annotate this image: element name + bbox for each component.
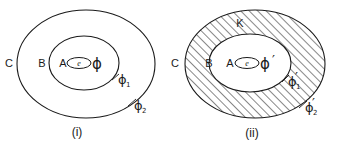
caption-ii: (ii): [245, 126, 258, 140]
outer-boundary-subscript-i: 2: [142, 107, 146, 115]
nested-regions-figure: e C B A ϕ ϕ 1 ϕ 2 (i): [0, 0, 339, 144]
outer-region-label-ii: C: [171, 57, 179, 69]
map-label-ii: ϕ: [260, 55, 270, 73]
panel-i: e C B A ϕ ϕ 1 ϕ 2 (i): [5, 10, 155, 139]
inner-boundary-prime-ii: ′: [295, 69, 298, 84]
panel-ii: e C K B A ϕ ′ ϕ 1 ′ ϕ 2: [171, 4, 332, 140]
outer-boundary-subscript-ii: 2: [313, 109, 317, 117]
middle-region-label-i: B: [38, 57, 45, 69]
figure-root: e C B A ϕ ϕ 1 ϕ 2 (i): [0, 0, 339, 144]
outer-boundary-label-group-i: ϕ 2: [128, 98, 146, 115]
core-label-i: e: [77, 59, 81, 68]
map-prime-ii: ′: [272, 52, 275, 67]
inner-boundary-label-group-i: ϕ 1: [112, 72, 130, 89]
caption-i: (i): [72, 125, 83, 139]
annulus-label-ii: K: [236, 17, 244, 29]
outer-region-label-i: C: [5, 57, 13, 69]
inner-boundary-subscript-i: 1: [126, 81, 130, 89]
inner-region-label-ii: A: [226, 57, 234, 69]
outer-boundary-prime-ii: ′: [312, 95, 315, 110]
core-label-ii: e: [245, 59, 249, 68]
middle-region-label-ii: B: [205, 57, 212, 69]
map-label-i: ϕ: [92, 55, 102, 73]
inner-region-label-i: A: [59, 57, 67, 69]
inner-boundary-subscript-ii: 1: [296, 83, 300, 91]
